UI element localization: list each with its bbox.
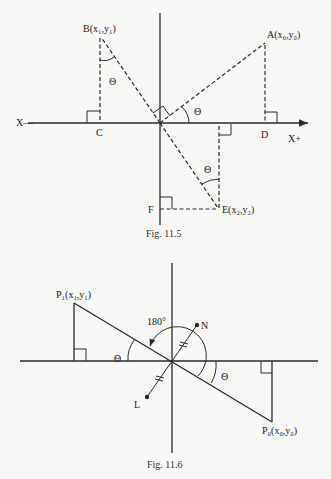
line-P1-P0 <box>74 303 272 422</box>
right-angle-E-top <box>219 124 231 135</box>
label-F: F <box>148 204 154 215</box>
right-angle-P0 <box>261 361 272 373</box>
label-theta-left: Θ <box>114 353 121 364</box>
point-L <box>145 395 149 399</box>
label-A: A(x₀,y₀) <box>267 29 300 41</box>
label-theta-right: Θ <box>221 371 228 382</box>
label-theta-B: Θ <box>109 76 116 87</box>
label-P0: P₀(x₀,y₀) <box>262 425 297 437</box>
caption-fig-11-6: Fig. 11.6 <box>147 459 182 470</box>
caption-fig-11-5: Fig. 11.5 <box>146 228 181 239</box>
figure-11-6: P₁(x₁,y₁) P₀(x₀,y₀) N L 180° Θ Θ Fig. 11… <box>20 263 318 470</box>
label-x-positive: X+ <box>288 133 301 144</box>
angle-arc-E <box>202 179 219 184</box>
label-E: E(x₂,y₂) <box>222 204 254 216</box>
angle-arc-origin <box>182 107 189 123</box>
right-angle-F <box>160 197 172 209</box>
diagram-canvas: B(x₁,y₁) A(x₀,y₀) E(x₂,y₂) C D F X— X+ Θ… <box>0 0 331 479</box>
line-OA <box>160 43 265 123</box>
label-B: B(x₁,y₁) <box>83 23 116 35</box>
angle-arc-right <box>211 361 216 383</box>
label-N: N <box>201 320 208 331</box>
right-angle-P1 <box>74 349 86 361</box>
figure-11-5: B(x₁,y₁) A(x₀,y₀) E(x₂,y₂) C D F X— X+ Θ… <box>16 13 308 239</box>
label-D: D <box>261 129 268 140</box>
point-N <box>195 323 199 327</box>
angle-arc-left <box>128 339 135 361</box>
right-angle-C <box>87 111 100 123</box>
right-angle-D <box>265 112 277 123</box>
label-theta-E: Θ <box>204 164 211 175</box>
label-rotation-180: 180° <box>147 316 166 327</box>
label-x-negative: X— <box>16 117 34 128</box>
angle-arc-B <box>100 57 114 61</box>
label-L: L <box>134 399 140 410</box>
label-P1: P₁(x₁,y₁) <box>56 289 91 301</box>
right-angle-origin <box>153 106 170 116</box>
label-theta-origin: Θ <box>194 106 201 117</box>
label-C: C <box>96 127 103 138</box>
